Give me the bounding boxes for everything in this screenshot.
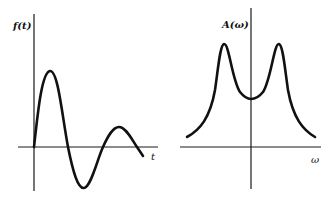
time-domain-plot: f(t) t [12, 14, 158, 191]
left-x-label: t [151, 151, 156, 162]
left-y-label: f(t) [12, 20, 32, 31]
frequency-domain-plot: A(ω) ω [180, 8, 321, 189]
figure-canvas: f(t) t A(ω) ω [0, 0, 331, 200]
right-y-label: A(ω) [221, 19, 249, 30]
right-x-label: ω [311, 154, 319, 165]
damped-oscillation-curve [34, 71, 143, 188]
